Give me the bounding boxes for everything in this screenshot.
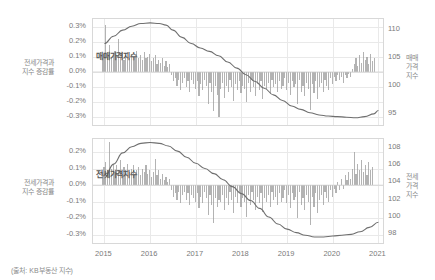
y2-tick-label: 106 [388,160,418,168]
source-note: (출처: KB부동산 지수) [11,265,73,275]
y2-tick-label: 98 [388,229,418,237]
chart-svg-jeonse [93,139,383,243]
plot-area-maemae [92,18,384,126]
y2-tick-label: 105 [388,53,418,61]
chart-figure: 전세가격과 지수 증감률 매매 가격 지수 0.3%0.2%0.1%0.0%-0… [0,0,435,280]
y-tick-label: 0.1% [44,52,86,60]
y2-tick-label: 100 [388,212,418,220]
y-tick-label: 0.0% [44,180,86,188]
x-tick-label: 2015 [95,249,112,258]
left-axis-label-bottom-line2: 지수 증감률 [22,188,54,195]
y-tick-label: 0.2% [44,37,86,45]
y2-tick-label: 110 [388,25,418,33]
plot-area-jeonse [92,138,384,244]
y-tick-label: -0.2% [44,213,86,221]
y-tick-label: -0.1% [44,197,86,205]
y-tick-label: -0.3% [44,112,86,120]
y-tick-label: 0.2% [44,147,86,155]
y-tick-label: -0.3% [44,230,86,238]
x-tick-label: 2020 [323,249,340,258]
y-tick-label: -0.2% [44,97,86,105]
y2-tick-label: 104 [388,177,418,185]
right-axis-label-top-line2: 가격 [406,63,418,70]
bar-series [102,142,374,225]
x-tick-label: 2016 [141,249,158,258]
x-axis: 2015201620172018201920202021 [0,249,435,261]
x-tick-label: 2017 [186,249,203,258]
chart-svg-maemae [93,19,383,125]
y2-tick-label: 95 [388,109,418,117]
series-label-jeonse: 전세가격지수 [96,168,137,179]
panel-maemae: 전세가격과 지수 증감률 매매 가격 지수 0.3%0.2%0.1%0.0%-0… [0,6,435,130]
x-tick-label: 2018 [232,249,249,258]
y2-tick-label: 100 [388,81,418,89]
y-tick-label: 0.3% [44,22,86,30]
y-tick-label: 0.0% [44,67,86,75]
y-tick-label: -0.1% [44,82,86,90]
y-tick-label: 0.1% [44,164,86,172]
right-axis-label-top-line3: 지수 [406,72,418,79]
left-axis-label-top-line1: 전세가격과 [24,59,54,66]
x-tick-label: 2021 [369,249,386,258]
y2-tick-label: 102 [388,195,418,203]
panel-jeonse: 전세가격과 지수 증감률 전세 가격 지수 0.2%0.1%0.0%-0.1%-… [0,130,435,248]
y2-tick-label: 108 [388,143,418,151]
x-tick-label: 2019 [278,249,295,258]
series-label-maemae: 매매가격지수 [96,50,137,61]
